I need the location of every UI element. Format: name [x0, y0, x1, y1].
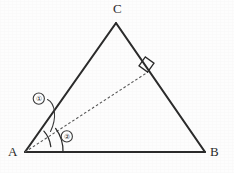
- vertex-label-C: C: [113, 2, 122, 15]
- angle-1-label: ①: [36, 94, 42, 103]
- altitude-line: [25, 72, 148, 152]
- geometry-figure: ① ② A B C: [0, 0, 234, 173]
- figure-canvas: ① ②: [0, 0, 234, 173]
- angle-2-arc: [56, 128, 63, 152]
- vertex-label-A: A: [8, 145, 17, 158]
- angle-2-label: ②: [64, 132, 70, 141]
- side-BC: [116, 23, 205, 152]
- vertex-label-B: B: [210, 145, 219, 158]
